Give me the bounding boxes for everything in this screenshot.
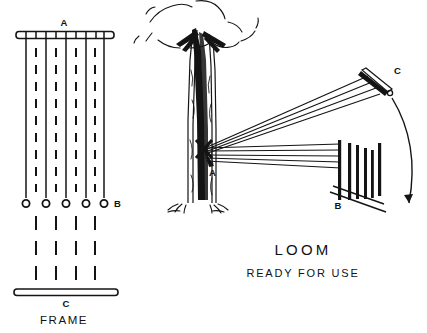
left-frame-panel: A bbox=[14, 17, 121, 326]
frame-caption: FRAME bbox=[40, 314, 88, 326]
caption-loom: LOOM bbox=[275, 241, 332, 258]
frame-label-c: C bbox=[63, 298, 70, 309]
loom-illustration: A bbox=[0, 0, 427, 333]
motion-arrow-icon bbox=[392, 98, 413, 203]
warp-threads-solid bbox=[26, 39, 104, 199]
bottom-bar-c bbox=[14, 289, 118, 296]
warp-bundle-upper bbox=[205, 76, 380, 154]
caption-ready-for-use: READY FOR USE bbox=[246, 267, 359, 279]
top-bar-a bbox=[16, 32, 114, 39]
top-bar-ticks bbox=[26, 32, 104, 38]
warp-threads-dashed-lower bbox=[36, 216, 95, 291]
frame-label-a: A bbox=[61, 17, 68, 28]
frame-label-b: B bbox=[114, 198, 121, 209]
loom-label-a: A bbox=[209, 167, 216, 178]
figure-root: A bbox=[0, 0, 427, 333]
grass-tuft-icon bbox=[168, 204, 228, 213]
loom-label-b: B bbox=[335, 200, 342, 211]
far-bar-c bbox=[358, 68, 393, 96]
ring-row-b bbox=[22, 200, 107, 207]
tree-trunk bbox=[176, 28, 226, 203]
loom-label-c: C bbox=[394, 65, 401, 76]
right-loom-panel: A C bbox=[134, 1, 413, 213]
warp-bundle-lower bbox=[205, 144, 341, 168]
